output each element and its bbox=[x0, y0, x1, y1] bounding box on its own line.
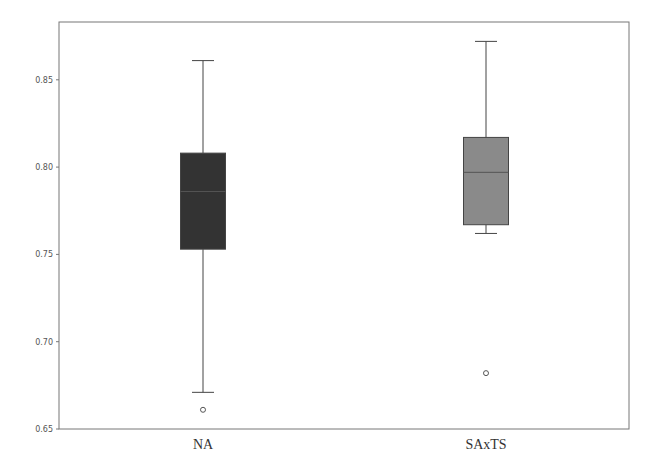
iqr-box bbox=[464, 137, 509, 224]
x-axis: NASAxTS bbox=[193, 437, 507, 452]
y-tick-label: 0.85 bbox=[35, 76, 53, 85]
y-tick-label: 0.70 bbox=[35, 338, 53, 347]
box-plot: 0.650.700.750.800.85 NASAxTS bbox=[0, 0, 661, 469]
y-axis: 0.650.700.750.800.85 bbox=[35, 76, 59, 434]
y-tick-label: 0.80 bbox=[35, 163, 53, 172]
y-tick-label: 0.75 bbox=[35, 250, 53, 259]
x-category-label: NA bbox=[193, 437, 214, 452]
iqr-box bbox=[181, 153, 226, 249]
y-tick-label: 0.65 bbox=[35, 425, 53, 434]
plot-area bbox=[59, 22, 629, 429]
x-category-label: SAxTS bbox=[465, 437, 506, 452]
